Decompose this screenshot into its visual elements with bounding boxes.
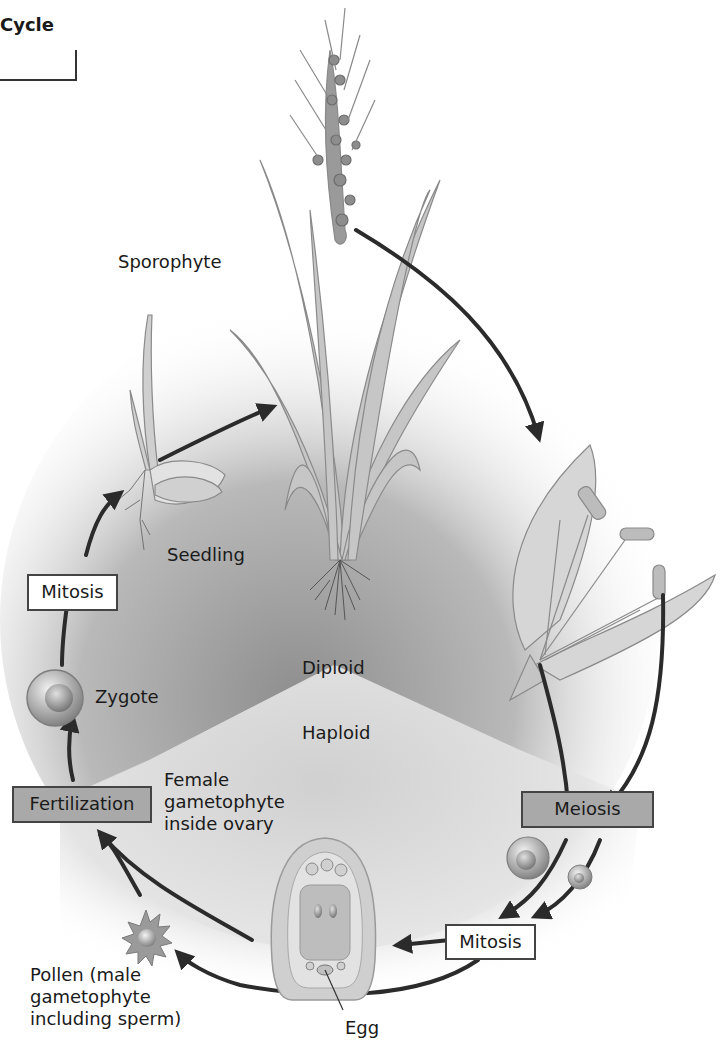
spore-cell-small-icon — [568, 865, 592, 889]
mitosis-box-bottom: Mitosis — [445, 924, 536, 960]
zygote-label: Zygote — [95, 686, 159, 707]
diploid-label: Diploid — [302, 657, 365, 678]
haploid-label: Haploid — [302, 722, 370, 743]
meiosis-box: Meiosis — [521, 791, 654, 828]
egg-label: Egg — [345, 1017, 379, 1038]
spore-cell-large-icon — [507, 837, 549, 879]
female-gametophyte-label: Female gametophyte inside ovary — [164, 769, 285, 835]
diagram-graphics — [0, 0, 724, 1059]
seedling-label: Seedling — [167, 544, 245, 565]
sporophyte-label: Sporophyte — [118, 251, 222, 272]
pollen-label: Pollen (male gametophyte including sperm… — [30, 964, 181, 1030]
plant-life-cycle-diagram: Cycle — [0, 0, 724, 1059]
zygote-cell-icon — [27, 670, 83, 726]
mitosis-box-left: Mitosis — [27, 574, 118, 611]
fertilization-box: Fertilization — [12, 786, 152, 823]
ovule-illustration — [271, 838, 375, 1010]
